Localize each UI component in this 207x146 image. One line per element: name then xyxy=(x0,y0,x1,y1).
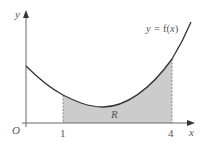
y-axis-label: y xyxy=(14,8,20,20)
region-r-label: R xyxy=(110,108,118,120)
curve-equation-label: y = f(x) xyxy=(145,23,179,35)
origin-label: O xyxy=(12,124,20,136)
curve-label-y: y = xyxy=(145,23,163,34)
lower-bound-label: 1 xyxy=(60,127,66,139)
x-axis-label: x xyxy=(188,126,194,138)
y-axis-arrow-icon xyxy=(23,10,29,18)
curve-label-close: ) xyxy=(175,23,179,35)
upper-bound-label: 4 xyxy=(168,127,174,139)
diagram-canvas: y x O 1 4 R y = f(x) xyxy=(0,0,207,146)
area-under-curve-diagram: y x O 1 4 R y = f(x) xyxy=(0,0,207,146)
